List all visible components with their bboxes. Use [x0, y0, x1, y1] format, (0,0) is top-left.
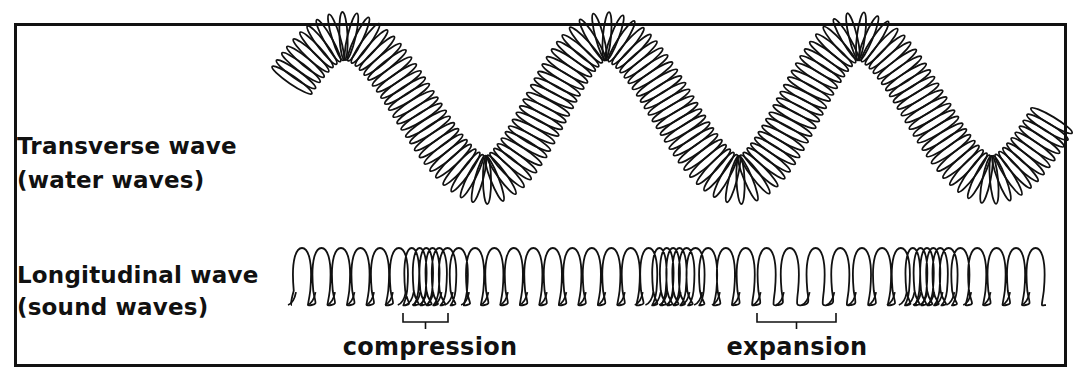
wave-illustration	[0, 0, 1079, 380]
longitudinal-spring-coils	[288, 248, 1046, 305]
transverse-spring-coils	[270, 12, 1074, 204]
annotation-brackets	[403, 313, 836, 329]
